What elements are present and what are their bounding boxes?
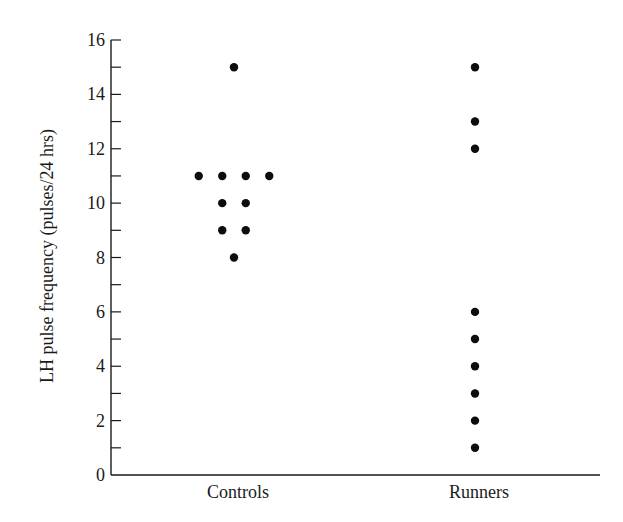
data-point-runners: [471, 117, 479, 125]
data-point-runners: [471, 444, 479, 452]
y-tick-label: 0: [96, 465, 105, 485]
chart-canvas: LH pulse frequency (pulses/24 hrs) 02468…: [0, 0, 623, 522]
data-point-runners: [471, 389, 479, 397]
y-tick-label: 12: [87, 139, 105, 159]
y-tick-label: 14: [87, 84, 105, 104]
data-point-controls: [265, 172, 273, 180]
data-point-runners: [471, 308, 479, 316]
data-point-runners: [471, 416, 479, 424]
y-tick-label: 8: [96, 248, 105, 268]
data-point-runners: [471, 335, 479, 343]
data-point-controls: [230, 63, 238, 71]
data-point-runners: [471, 145, 479, 153]
category-label-runners: Runners: [449, 482, 509, 502]
y-axis-title-group: LH pulse frequency (pulses/24 hrs): [37, 129, 58, 383]
y-tick-label: 6: [96, 302, 105, 322]
data-point-controls: [218, 172, 226, 180]
data-point-controls: [195, 172, 203, 180]
y-tick-label: 4: [96, 356, 105, 376]
data-point-controls: [242, 199, 250, 207]
category-label-controls: Controls: [207, 482, 269, 502]
data-point-runners: [471, 362, 479, 370]
data-point-controls: [218, 226, 226, 234]
dot-plot-chart: LH pulse frequency (pulses/24 hrs) 02468…: [0, 0, 623, 522]
y-axis: 0246810121416: [87, 30, 121, 485]
data-point-controls: [242, 172, 250, 180]
data-point-controls: [242, 226, 250, 234]
y-axis-title: LH pulse frequency (pulses/24 hrs): [37, 129, 58, 383]
y-tick-label: 10: [87, 193, 105, 213]
y-tick-label: 2: [96, 411, 105, 431]
data-point-runners: [471, 63, 479, 71]
data-point-controls: [218, 199, 226, 207]
y-tick-label: 16: [87, 30, 105, 50]
data-point-controls: [230, 253, 238, 261]
category-labels: ControlsRunners: [207, 482, 509, 502]
data-points: [195, 63, 480, 452]
